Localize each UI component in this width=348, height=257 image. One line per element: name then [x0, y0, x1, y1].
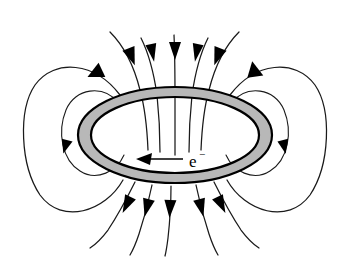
figure-root: e − [0, 0, 348, 257]
magnetic-field-diagram: e − [0, 0, 348, 257]
electron-charge-superscript: − [199, 148, 205, 160]
electron-label: e [189, 152, 197, 171]
